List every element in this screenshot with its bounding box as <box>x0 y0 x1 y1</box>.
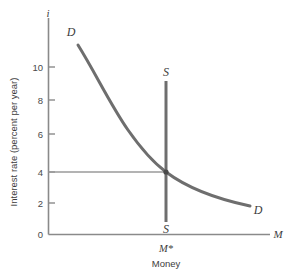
equilibrium-quantity-label: M* <box>158 243 174 254</box>
demand-curve-label-bottom: D <box>253 203 263 217</box>
y-tick-label-0: 0 <box>38 229 43 240</box>
demand-curve-label-top: D <box>66 25 76 39</box>
x-axis-variable-label: M <box>272 228 283 240</box>
supply-curve-label-top: S <box>163 65 169 79</box>
x-axis-title: Money <box>152 258 181 269</box>
chart-canvas: 10 8 6 4 2 0 i M D D S S M* Money Intere… <box>0 0 293 279</box>
y-tick-label-8: 8 <box>38 95 43 106</box>
y-tick-label-10: 10 <box>32 62 43 73</box>
supply-curve-label-bottom: S <box>163 222 169 236</box>
y-tick-label-4: 4 <box>38 167 43 178</box>
y-tick-label-2: 2 <box>38 198 43 209</box>
equilibrium-point <box>163 169 168 174</box>
y-axis-variable-label: i <box>46 7 49 19</box>
y-axis-title: Interest rate (percent per year) <box>8 78 19 207</box>
y-tick-label-6: 6 <box>38 129 43 140</box>
money-market-chart-figure: 10 8 6 4 2 0 i M D D S S M* Money Intere… <box>0 0 293 279</box>
